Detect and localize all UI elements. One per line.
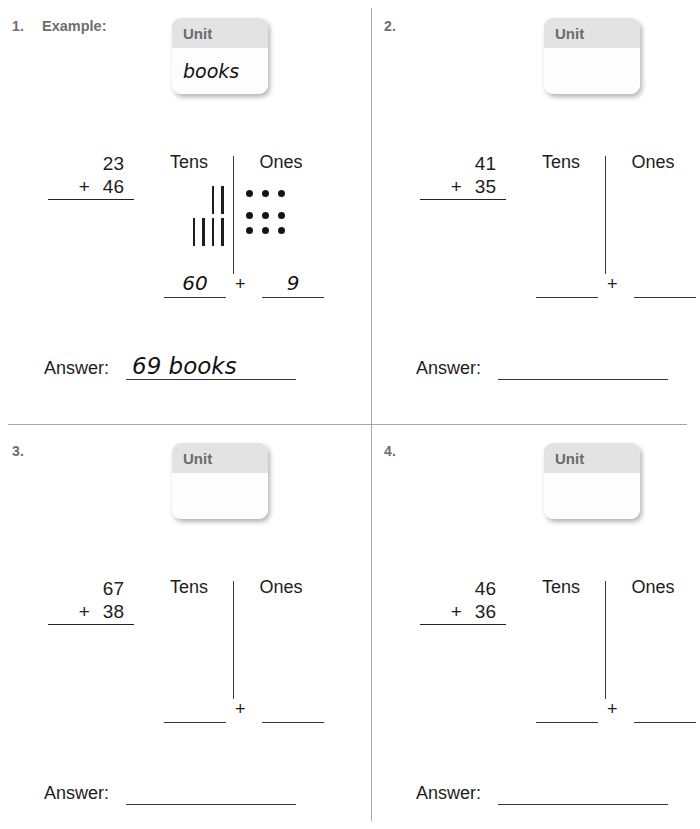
- tens-answer-blank[interactable]: [536, 696, 598, 723]
- problem-2: 2. Unit 41 +35 Tens Ones +: [372, 0, 700, 424]
- tens-answer-blank[interactable]: [164, 696, 226, 723]
- unit-card: Unit: [172, 443, 268, 519]
- addend-top: 23: [48, 152, 134, 175]
- vertical-addition: 23 +46: [48, 152, 134, 200]
- place-value-rule: [605, 581, 606, 699]
- problem-1: 1. Example: Unit books 23 +46 Tens Ones …: [0, 0, 371, 424]
- unit-value: books: [183, 60, 239, 82]
- ones-answer-blank[interactable]: [262, 696, 324, 723]
- addend-bottom-row: +35: [420, 175, 506, 200]
- place-value-rule: [233, 156, 234, 274]
- addend-bottom-row: +38: [48, 600, 134, 625]
- problem-number: 3.: [12, 443, 24, 459]
- place-value-headers: Tens Ones: [150, 152, 350, 176]
- tens-answer-blank[interactable]: [536, 271, 598, 298]
- ones-dot-area[interactable]: [246, 186, 326, 238]
- tally-mark: [193, 218, 196, 246]
- ones-dot: [262, 190, 269, 197]
- tens-header: Tens: [150, 152, 228, 173]
- ones-dot: [246, 227, 253, 234]
- plus-operator: +: [79, 601, 90, 622]
- problem-3: 3. Unit 67 +38 Tens Ones +: [0, 425, 371, 829]
- problem-number: 2.: [384, 18, 396, 34]
- answer-label: Answer:: [416, 783, 481, 804]
- place-value-rule: [605, 156, 606, 274]
- ones-answer-blank[interactable]: [634, 271, 696, 298]
- place-value-headers: Tens Ones: [150, 577, 350, 601]
- addend-top: 41: [420, 152, 506, 175]
- tally-row: [150, 216, 230, 248]
- plus-operator: +: [79, 176, 90, 197]
- decomposition-plus: +: [235, 274, 246, 295]
- decomposition-plus: +: [607, 699, 618, 720]
- answer-row: Answer:: [416, 350, 700, 380]
- unit-card: Unit: [544, 443, 640, 519]
- tens-answer-blank[interactable]: 60: [164, 271, 226, 298]
- dot-row: [246, 208, 326, 223]
- tally-row: [150, 184, 230, 216]
- tally-mark: [202, 218, 205, 246]
- ones-header: Ones: [614, 577, 692, 598]
- decomposition-row: +: [522, 268, 700, 298]
- place-value-headers: Tens Ones: [522, 577, 700, 601]
- addend-bottom-row: +46: [48, 175, 134, 200]
- tens-header: Tens: [522, 152, 600, 173]
- decomposition-row: +: [522, 693, 700, 723]
- plus-operator: +: [451, 176, 462, 197]
- ones-dot: [278, 190, 285, 197]
- ones-dot: [278, 212, 285, 219]
- tally-mark: [221, 186, 224, 214]
- unit-card-header: Unit: [172, 18, 268, 48]
- addend-bottom: 38: [103, 601, 124, 622]
- vertical-addition: 46 +36: [420, 577, 506, 625]
- ones-answer-blank[interactable]: 9: [262, 271, 324, 298]
- addend-bottom: 46: [103, 176, 124, 197]
- addend-bottom-row: +36: [420, 600, 506, 625]
- tens-tally-area[interactable]: [150, 184, 230, 248]
- ones-dot: [246, 190, 253, 197]
- unit-header-label: Unit: [183, 450, 212, 467]
- unit-card-body[interactable]: [172, 473, 268, 519]
- unit-header-label: Unit: [183, 25, 212, 42]
- tally-mark: [221, 218, 224, 246]
- vertical-addition: 67 +38: [48, 577, 134, 625]
- unit-card-header: Unit: [172, 443, 268, 473]
- answer-blank[interactable]: [498, 778, 668, 805]
- tens-header: Tens: [522, 577, 600, 598]
- ones-answer-blank[interactable]: [634, 696, 696, 723]
- problem-title: Example:: [42, 18, 106, 34]
- unit-card-body[interactable]: books: [172, 48, 268, 94]
- unit-header-label: Unit: [555, 450, 584, 467]
- plus-operator: +: [451, 601, 462, 622]
- unit-card: Unit: [544, 18, 640, 94]
- unit-card-header: Unit: [544, 443, 640, 473]
- ones-header: Ones: [614, 152, 692, 173]
- unit-card-body[interactable]: [544, 48, 640, 94]
- answer-row: Answer:: [44, 775, 344, 805]
- unit-card: Unit books: [172, 18, 268, 94]
- ones-dot: [262, 212, 269, 219]
- answer-blank[interactable]: [126, 778, 296, 805]
- tally-mark: [212, 218, 215, 246]
- decomposition-plus: +: [607, 274, 618, 295]
- addend-top: 46: [420, 577, 506, 600]
- addend-bottom: 36: [475, 601, 496, 622]
- unit-header-label: Unit: [555, 25, 584, 42]
- ones-dot: [246, 212, 253, 219]
- answer-label: Answer:: [44, 783, 109, 804]
- answer-blank[interactable]: [498, 353, 668, 380]
- ones-dot: [278, 227, 285, 234]
- ones-header: Ones: [242, 577, 320, 598]
- answer-row: Answer:: [416, 775, 700, 805]
- decomposition-plus: +: [235, 699, 246, 720]
- unit-card-body[interactable]: [544, 473, 640, 519]
- answer-row: Answer: 69 books: [44, 350, 344, 380]
- tens-header: Tens: [150, 577, 228, 598]
- dot-row: [246, 223, 326, 238]
- tally-mark: [212, 186, 215, 214]
- answer-blank[interactable]: 69 books: [126, 353, 296, 380]
- addend-bottom: 35: [475, 176, 496, 197]
- ones-dot: [262, 227, 269, 234]
- problem-number: 4.: [384, 443, 396, 459]
